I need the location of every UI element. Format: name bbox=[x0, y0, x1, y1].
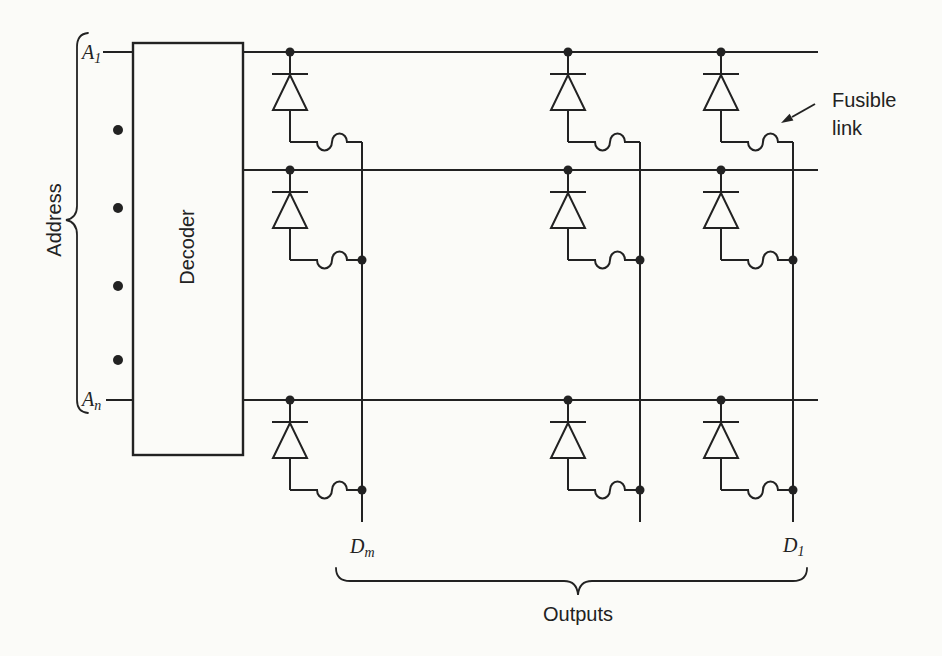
address-input-an-label: An bbox=[80, 388, 101, 413]
memory-cell-r1c3 bbox=[703, 48, 793, 151]
memory-cell-r3c3 bbox=[703, 396, 793, 499]
d1-subscript: 1 bbox=[797, 544, 804, 559]
memory-cell-r2c2 bbox=[550, 166, 640, 269]
fusible-link-label-line2: link bbox=[832, 117, 863, 139]
dm-subscript: m bbox=[364, 545, 374, 560]
a1-base: A bbox=[80, 41, 95, 63]
junction-dot-icon bbox=[358, 256, 367, 265]
ellipsis-dot-icon bbox=[113, 203, 123, 213]
memory-cell-r3c1 bbox=[272, 396, 362, 499]
curly-brace-icon bbox=[66, 33, 88, 413]
ellipsis-dot-icon bbox=[113, 281, 123, 291]
output-dm-label: Dm bbox=[349, 535, 375, 560]
ellipsis-dot-icon bbox=[113, 355, 123, 365]
fusible-link-label-line1: Fusible bbox=[832, 89, 896, 111]
an-subscript: n bbox=[94, 398, 101, 413]
arrow-icon bbox=[781, 104, 815, 123]
memory-cell-r3c2 bbox=[550, 396, 640, 499]
outputs-group-label: Outputs bbox=[543, 603, 613, 625]
junction-dot-icon bbox=[789, 256, 798, 265]
junction-dot-icon bbox=[636, 256, 645, 265]
memory-cell-r1c2 bbox=[550, 48, 640, 151]
memory-cell-r1c1 bbox=[272, 48, 362, 151]
junction-dot-icon bbox=[636, 486, 645, 495]
decoder-label: Decoder bbox=[176, 209, 198, 285]
dm-base: D bbox=[349, 535, 365, 557]
address-input-a1-label: A1 bbox=[80, 41, 101, 66]
an-base: A bbox=[80, 388, 95, 410]
curly-brace-icon bbox=[336, 568, 807, 595]
a1-subscript: 1 bbox=[94, 51, 101, 66]
memory-cell-r2c3 bbox=[703, 166, 793, 269]
output-d1-label: D1 bbox=[782, 534, 804, 559]
ellipsis-dot-icon bbox=[113, 125, 123, 135]
address-group-label: Address bbox=[43, 183, 65, 256]
d1-base: D bbox=[782, 534, 798, 556]
junction-dot-icon bbox=[358, 486, 367, 495]
junction-dot-icon bbox=[789, 486, 798, 495]
circuit-diagram-canvas: Address A1 An Decoder bbox=[0, 0, 942, 656]
prom-diode-matrix-figure: Address A1 An Decoder bbox=[0, 0, 942, 656]
memory-cell-r2c1 bbox=[272, 166, 362, 269]
